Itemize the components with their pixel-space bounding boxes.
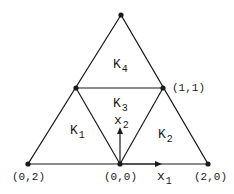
element-label-k4: K4: [113, 58, 128, 71]
coord-label-right: (2,0): [194, 172, 227, 183]
coord-label-mid-right: (1,1): [172, 83, 205, 94]
vertex-left-mid: [73, 85, 78, 90]
coord-label-left: (0,2): [12, 172, 45, 183]
vertex-bottom-left: [25, 161, 30, 166]
element-label-k1: K1: [70, 124, 85, 137]
element-label-k2: K2: [158, 128, 173, 141]
axis-label-x1: x1: [157, 170, 172, 183]
vertex-right-mid: [160, 85, 165, 90]
x1-arrowhead-icon: [155, 161, 162, 167]
vertex-top: [118, 12, 123, 17]
vertex-origin: [117, 161, 122, 166]
coord-label-origin: (0,0): [104, 172, 137, 183]
axis-label-x2: x2: [114, 114, 129, 127]
element-label-k3: K3: [113, 97, 128, 110]
vertex-bottom-right: [205, 161, 210, 166]
